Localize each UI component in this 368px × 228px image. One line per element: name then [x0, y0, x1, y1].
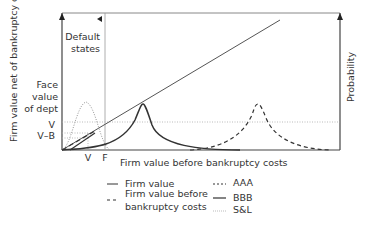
y-tick-vb: V–B [37, 130, 55, 141]
legend-sl-label: S&L [233, 204, 252, 215]
right-axis-label: Probability [345, 51, 356, 102]
legend-before-costs-label: Firm value before [125, 188, 208, 199]
x-tick-v: V [85, 152, 92, 163]
legend-aaa-label: AAA [233, 177, 254, 188]
default-states-arrow-icon [97, 16, 102, 22]
svg-text:bankruptcy costs: bankruptcy costs [125, 201, 207, 212]
x-axis-label: Firm value before bankruptcy costs [120, 157, 288, 168]
default-states-label: Default [65, 31, 100, 42]
bbb-curve [62, 104, 240, 150]
svg-text:value: value [32, 91, 58, 102]
left-axis-arrow-icon [59, 13, 65, 20]
left-axis-label: Firm value net of bankruptcy costs [8, 0, 19, 142]
right-axis-arrow-icon [337, 13, 343, 20]
x-tick-f: F [102, 152, 107, 163]
svg-text:of dept: of dept [24, 103, 58, 114]
face-value-label: Face [37, 79, 59, 90]
svg-text:states: states [71, 43, 100, 54]
legend-bbb-label: BBB [233, 192, 253, 203]
bankruptcy-diagram: Firm value net of bankruptcy costs Proba… [0, 0, 368, 228]
y-tick-v: V [49, 119, 56, 130]
aaa-curve [190, 104, 330, 150]
legend: Firm value Firm value before bankruptcy … [107, 177, 254, 215]
